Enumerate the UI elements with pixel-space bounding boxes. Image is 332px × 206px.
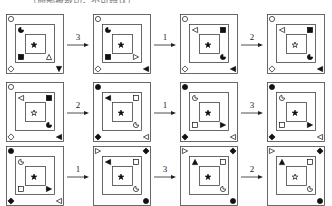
panel-r1p4	[267, 14, 325, 74]
circle-icon	[95, 16, 100, 21]
pacman-icon	[307, 54, 312, 59]
pacman-icon	[105, 27, 110, 32]
nested-squares-figure	[6, 14, 64, 74]
triangle-down-icon	[56, 66, 61, 71]
panel-r1p3	[180, 14, 238, 74]
diamond-icon	[8, 198, 14, 204]
triangle-left-icon	[143, 134, 148, 139]
pacman-icon	[46, 122, 51, 127]
panel-r2p3	[180, 82, 238, 142]
star-icon	[292, 110, 298, 115]
triangle-up-icon	[192, 159, 197, 164]
triangle-left-icon	[279, 27, 284, 32]
square-icon	[220, 159, 225, 164]
star-icon	[292, 42, 298, 47]
arrow-right-icon	[65, 110, 91, 116]
triangle-right-icon	[220, 122, 225, 127]
arrow-step-label: 3	[65, 32, 91, 42]
pacman-icon	[307, 186, 312, 191]
transform-arrow: 2	[239, 34, 265, 50]
triangle-left-icon	[143, 66, 148, 71]
square-icon	[192, 122, 197, 127]
nested-squares-figure	[267, 82, 325, 142]
circle-icon	[8, 16, 13, 21]
circle-icon	[182, 16, 187, 21]
square-icon	[220, 27, 225, 32]
arrow-step-label: 2	[239, 32, 265, 42]
square-icon	[279, 122, 284, 127]
triangle-left-icon	[230, 66, 235, 71]
nested-squares-figure	[93, 14, 151, 74]
pacman-icon	[192, 95, 197, 100]
star-icon	[292, 174, 298, 179]
triangle-right-icon	[269, 148, 274, 153]
triangle-right-icon	[307, 122, 312, 127]
panel-r3p2	[93, 146, 151, 206]
star-icon	[205, 110, 211, 115]
circle-icon	[269, 84, 274, 89]
triangle-left-icon	[192, 27, 197, 32]
arrow-step-label: 3	[239, 100, 265, 110]
square-icon	[46, 95, 51, 100]
triangle-left-icon	[105, 95, 110, 100]
nested-squares-figure	[6, 146, 64, 206]
pacman-icon	[133, 122, 138, 127]
pacman-icon	[220, 54, 225, 59]
nested-squares-figure	[267, 14, 325, 74]
circle-icon	[269, 16, 274, 21]
triangle-left-icon	[56, 198, 61, 203]
transform-arrow: 1	[152, 34, 178, 50]
triangle-left-icon	[317, 134, 322, 139]
pacman-icon	[279, 95, 284, 100]
triangle-up-icon	[46, 54, 51, 59]
triangle-left-icon	[18, 95, 23, 100]
nested-squares-figure	[180, 146, 238, 206]
triangle-right-icon	[133, 54, 138, 59]
circle-icon	[230, 198, 235, 203]
nested-squares-figure	[93, 82, 151, 142]
arrow-right-icon	[239, 174, 265, 180]
pacman-icon	[18, 159, 23, 164]
triangle-left-icon	[230, 134, 235, 139]
panel-r3p1	[6, 146, 64, 206]
triangle-left-icon	[105, 159, 110, 164]
transform-arrow: 1	[152, 102, 178, 118]
triangle-up-icon	[279, 159, 284, 164]
diamond-icon	[95, 66, 101, 72]
circle-icon	[8, 84, 13, 89]
diamond-icon	[182, 66, 188, 72]
nested-squares-figure	[93, 146, 151, 206]
diamond-icon	[95, 134, 101, 140]
star-icon	[31, 174, 37, 179]
square-icon	[133, 159, 138, 164]
arrow-step-label: 1	[152, 32, 178, 42]
triangle-right-icon	[46, 186, 51, 191]
panel-r3p3	[180, 146, 238, 206]
star-icon	[118, 110, 124, 115]
square-icon	[18, 54, 23, 59]
transform-arrow: 3	[239, 102, 265, 118]
arrow-step-label: 2	[65, 100, 91, 110]
nested-squares-figure	[180, 14, 238, 74]
circle-icon	[182, 84, 187, 89]
panel-r1p1	[6, 14, 64, 74]
diamond-icon	[230, 148, 236, 154]
nested-squares-figure	[267, 146, 325, 206]
diamond-icon	[269, 134, 275, 140]
square-icon	[18, 186, 23, 191]
triangle-right-icon	[182, 148, 187, 153]
diamond-icon	[269, 66, 275, 72]
star-icon	[31, 42, 37, 47]
panel-r3p4	[267, 146, 325, 206]
circle-icon	[8, 148, 13, 153]
cropped-caption: ……（局部被裁切，不可辨认）……	[10, 0, 190, 3]
star-icon	[205, 174, 211, 179]
nested-squares-figure	[6, 82, 64, 142]
star-icon	[118, 42, 124, 47]
arrow-step-label: 1	[152, 100, 178, 110]
square-icon	[307, 27, 312, 32]
circle-icon	[143, 198, 148, 203]
pacman-icon	[18, 27, 23, 32]
circle-icon	[317, 198, 322, 203]
panel-r2p4	[267, 82, 325, 142]
